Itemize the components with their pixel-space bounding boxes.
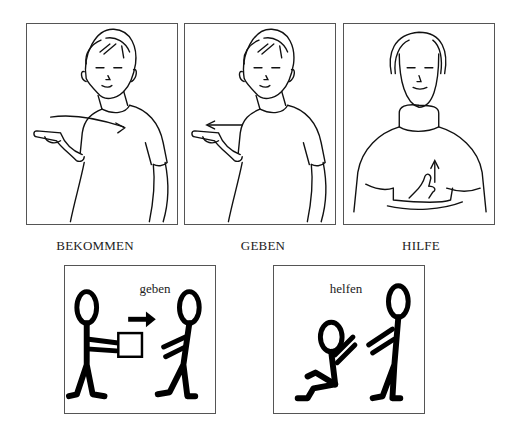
sign-panel-geben (184, 23, 336, 225)
pictogram-panel-helfen: helfen (273, 265, 425, 414)
sign-panel-hilfe (343, 23, 495, 225)
pictogram-panel-geben: geben (64, 265, 216, 414)
caption-bekommen: BEKOMMEN (35, 238, 155, 254)
caption-hilfe: HILFE (361, 238, 481, 254)
pictogram-label-geben: geben (115, 281, 195, 297)
woman-signing-hilfe-illustration (344, 24, 494, 224)
boy-signing-geben-illustration (185, 24, 335, 224)
sign-panel-bekommen (26, 23, 178, 225)
boy-signing-bekommen-illustration (27, 24, 177, 224)
pictogram-label-helfen: helfen (306, 281, 386, 297)
caption-geben: GEBEN (203, 238, 323, 254)
